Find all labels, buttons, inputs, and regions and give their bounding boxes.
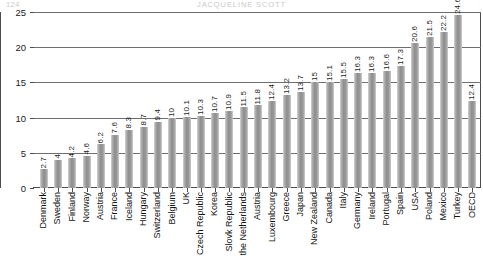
bar-value-label: 9.4 xyxy=(154,109,162,120)
bar-item: 24.6 xyxy=(451,12,465,188)
bar-item: 8.7 xyxy=(137,12,151,188)
bar xyxy=(468,101,476,188)
x-axis-category-label-text: New Zealand xyxy=(308,192,322,245)
bar xyxy=(40,169,48,188)
x-axis-category-label-text: Sweden xyxy=(51,192,65,225)
x-axis-category-label: Korea xyxy=(208,192,222,216)
y-axis-tick-label: 5 xyxy=(0,147,26,158)
x-axis-category-label-text: Korea xyxy=(208,192,222,216)
bar-item: 4.2 xyxy=(65,12,79,188)
bar-value-label: 22.2 xyxy=(440,15,448,31)
x-axis-category-label-text: Greece xyxy=(280,192,294,222)
x-axis-category-label: USA xyxy=(408,192,422,211)
bar xyxy=(283,95,291,188)
bar-item: 21.5 xyxy=(422,12,436,188)
x-axis-category-label: Poland xyxy=(422,192,436,220)
bar xyxy=(326,82,334,188)
bar-item: 10.3 xyxy=(194,12,208,188)
bar-value-label: 10 xyxy=(168,108,176,117)
bar xyxy=(454,15,462,188)
bar xyxy=(54,160,62,188)
bar-item: 6.2 xyxy=(94,12,108,188)
bar-value-label: 10.7 xyxy=(211,96,219,112)
bar-value-label: 24.6 xyxy=(454,0,462,14)
x-axis-category-label: Austria xyxy=(251,192,265,220)
x-axis-category-label: Sweden xyxy=(51,192,65,225)
y-axis-tick-label: 15 xyxy=(0,77,26,88)
bar-value-label: 15.5 xyxy=(340,62,348,78)
x-axis-category-label: Ireland xyxy=(365,192,379,220)
bar xyxy=(311,82,319,188)
x-axis-category-label-text: France xyxy=(108,192,122,220)
bar-value-label: 10.3 xyxy=(197,99,205,115)
bar-item: 22.2 xyxy=(437,12,451,188)
bar-item: 17.3 xyxy=(394,12,408,188)
x-axis-category-label: Greece xyxy=(280,192,294,222)
x-axis-category-label-text: Hungary xyxy=(137,192,151,226)
x-axis-category-label-text: the Netherlands xyxy=(237,192,251,256)
x-axis-category-label: Mexico xyxy=(437,192,451,221)
bar xyxy=(97,144,105,188)
x-axis-category-label: UK xyxy=(179,192,193,205)
bar-value-label: 10.9 xyxy=(225,94,233,110)
bar-value-label: 7.6 xyxy=(111,122,119,133)
bar-value-label: 16.6 xyxy=(383,54,391,70)
x-axis-category-label-text: Portugal xyxy=(380,192,394,226)
bar-value-label: 6.2 xyxy=(97,132,105,143)
bar xyxy=(168,118,176,188)
x-axis-category-label-text: Denmark xyxy=(37,192,51,229)
bar-value-label: 12.4 xyxy=(268,84,276,100)
bar-value-label: 21.5 xyxy=(426,20,434,36)
x-axis-category-label-text: Mexico xyxy=(437,192,451,221)
x-axis-category-label-text: Finland xyxy=(66,192,80,222)
y-axis-line xyxy=(0,12,1,188)
x-axis-category-label-text: Slovk Republic xyxy=(223,192,237,252)
bar-item: 16.3 xyxy=(365,12,379,188)
x-axis-category-label-text: Germany xyxy=(351,192,365,229)
bar xyxy=(140,127,148,188)
bar-value-label: 17.3 xyxy=(397,49,405,65)
bar-series: 2.744.24.66.27.68.38.79.41010.110.310.71… xyxy=(34,12,481,188)
y-axis-tick-label: 0 xyxy=(0,183,26,194)
bar xyxy=(268,101,276,188)
x-axis-category-label-text: Iceland xyxy=(123,192,137,221)
bar-item: 10 xyxy=(165,12,179,188)
bar-item: 12.4 xyxy=(265,12,279,188)
bar-item: 10.7 xyxy=(208,12,222,188)
x-axis-category-label: Slovk Republic xyxy=(222,192,236,252)
y-axis-tick-label: 20 xyxy=(0,42,26,53)
running-head: 124 JACQUELINE SCOTT xyxy=(0,0,483,11)
bar xyxy=(368,73,376,188)
bar-item: 13.7 xyxy=(294,12,308,188)
bar-value-label: 16.3 xyxy=(354,56,362,72)
x-axis-category-label: Belgium xyxy=(165,192,179,225)
bar-value-label: 4.6 xyxy=(83,143,91,154)
bar xyxy=(197,116,205,189)
bar-item: 10.9 xyxy=(222,12,236,188)
bar-value-label: 11.8 xyxy=(254,89,262,104)
bar-item: 4 xyxy=(51,12,65,188)
x-axis-category-label: Finland xyxy=(65,192,79,222)
bar-item: 16.3 xyxy=(351,12,365,188)
bar xyxy=(354,73,362,188)
bar-value-label: 15.1 xyxy=(326,65,334,81)
bar xyxy=(426,37,434,188)
bar-value-label: 16.3 xyxy=(368,56,376,72)
bar xyxy=(411,43,419,188)
x-axis-category-label: the Netherlands xyxy=(237,192,251,256)
bar xyxy=(211,113,219,188)
x-axis-category-label-text: Italy xyxy=(337,192,351,209)
bar xyxy=(111,135,119,189)
x-axis-category-label-text: Turkey xyxy=(451,192,465,219)
bar-item: 15.1 xyxy=(322,12,336,188)
x-axis-category-label: Iceland xyxy=(122,192,136,221)
bar-value-label: 13.7 xyxy=(297,75,305,91)
x-axis-category-label: Czech Republic xyxy=(194,192,208,255)
bar xyxy=(83,156,91,188)
bar-item: 2.7 xyxy=(37,12,51,188)
x-axis-category-label-text: Czech Republic xyxy=(194,192,208,255)
bar-value-label: 4 xyxy=(54,154,62,159)
bar xyxy=(254,105,262,188)
x-axis-category-label-text: Ireland xyxy=(366,192,380,220)
bar-item: 11.5 xyxy=(237,12,251,188)
